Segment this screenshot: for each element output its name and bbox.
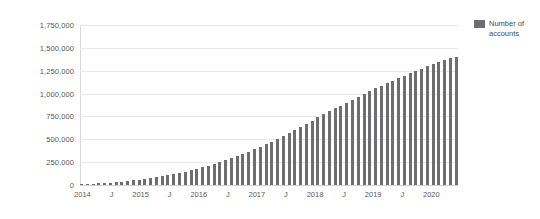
- bar: [97, 183, 100, 185]
- gridline: [80, 185, 458, 186]
- x-axis-tick-label: J: [168, 190, 172, 199]
- bar: [363, 94, 366, 185]
- bar: [420, 69, 423, 185]
- bar: [259, 147, 262, 185]
- bar: [143, 179, 146, 185]
- bar: [449, 58, 452, 185]
- bar: [265, 144, 268, 185]
- y-axis-labels: 1,750,0001,500,0001,250,0001,000,000750,…: [0, 25, 74, 185]
- bar: [120, 182, 123, 185]
- bar: [437, 62, 440, 185]
- bar: [345, 103, 348, 185]
- bar-chart: 1,750,0001,500,0001,250,0001,000,000750,…: [0, 0, 540, 219]
- bar: [397, 78, 400, 185]
- bar: [172, 174, 175, 185]
- y-axis-tick-label: 750,000: [2, 112, 74, 121]
- x-axis-tick-label: J: [284, 190, 288, 199]
- bar: [126, 181, 129, 185]
- bar: [322, 114, 325, 185]
- bar: [305, 124, 308, 185]
- bar: [386, 83, 389, 185]
- bar: [351, 100, 354, 185]
- bar: [109, 183, 112, 185]
- bar: [92, 184, 95, 185]
- bar: [224, 160, 227, 185]
- bar: [368, 91, 371, 185]
- x-axis-tick-label: 2018: [307, 190, 324, 199]
- bar: [247, 152, 250, 185]
- bar: [432, 64, 435, 185]
- bar: [334, 108, 337, 185]
- bar-series-number-of-accounts: [80, 25, 458, 185]
- bar: [316, 117, 319, 185]
- bar: [374, 88, 377, 185]
- y-axis-tick-label: 1,500,000: [2, 43, 74, 52]
- x-axis-tick-label: 2019: [365, 190, 382, 199]
- bar: [380, 86, 383, 185]
- bar: [241, 154, 244, 185]
- bar: [253, 149, 256, 185]
- bar: [403, 76, 406, 185]
- y-axis-tick-label: 500,000: [2, 135, 74, 144]
- bar: [339, 106, 342, 185]
- y-axis-tick-label: 250,000: [2, 158, 74, 167]
- bar: [293, 130, 296, 185]
- bar: [103, 183, 106, 185]
- bar: [311, 121, 314, 185]
- bar: [184, 172, 187, 185]
- bar: [218, 162, 221, 185]
- bar: [207, 166, 210, 185]
- bar: [236, 156, 239, 185]
- y-axis-tick-label: 1,750,000: [2, 21, 74, 30]
- legend-label: Number of accounts: [489, 19, 536, 38]
- x-axis-tick-label: J: [400, 190, 404, 199]
- x-axis-tick-label: J: [226, 190, 230, 199]
- x-axis-tick-label: 2014: [74, 190, 91, 199]
- x-axis-tick-label: 2017: [249, 190, 266, 199]
- x-axis-tick-label: J: [342, 190, 346, 199]
- bar: [288, 133, 291, 185]
- bar: [190, 170, 193, 185]
- y-axis-tick-label: 1,250,000: [2, 66, 74, 75]
- bar: [276, 139, 279, 185]
- x-axis-labels: 2014J2015J2016J2017J2018J2019J2020: [80, 190, 458, 204]
- bar: [115, 182, 118, 185]
- bar: [166, 175, 169, 185]
- bar: [426, 66, 429, 185]
- bar: [270, 142, 273, 185]
- bar: [80, 184, 83, 185]
- bar: [357, 97, 360, 185]
- bar: [391, 81, 394, 185]
- bar: [155, 177, 158, 185]
- bar: [409, 73, 412, 185]
- y-axis-tick-label: 1,000,000: [2, 89, 74, 98]
- bar: [178, 173, 181, 185]
- bar: [414, 71, 417, 185]
- x-axis-tick-label: 2016: [190, 190, 207, 199]
- bar: [149, 178, 152, 185]
- x-axis-tick-label: J: [110, 190, 114, 199]
- legend-swatch-icon: [474, 20, 485, 28]
- bar: [443, 60, 446, 185]
- x-axis-tick-label: 2020: [423, 190, 440, 199]
- bar: [328, 111, 331, 185]
- bar: [195, 169, 198, 185]
- bar: [132, 180, 135, 185]
- bar: [86, 184, 89, 185]
- x-axis-tick-label: 2015: [132, 190, 149, 199]
- bar: [299, 127, 302, 185]
- bar: [138, 180, 141, 185]
- bar: [230, 158, 233, 185]
- chart-legend: Number of accounts: [474, 19, 536, 38]
- bar: [282, 136, 285, 185]
- bar: [455, 57, 458, 185]
- y-axis-tick-label: 0: [2, 181, 74, 190]
- bar: [213, 164, 216, 185]
- bar: [201, 167, 204, 185]
- plot-area: [80, 25, 458, 185]
- bar: [161, 176, 164, 185]
